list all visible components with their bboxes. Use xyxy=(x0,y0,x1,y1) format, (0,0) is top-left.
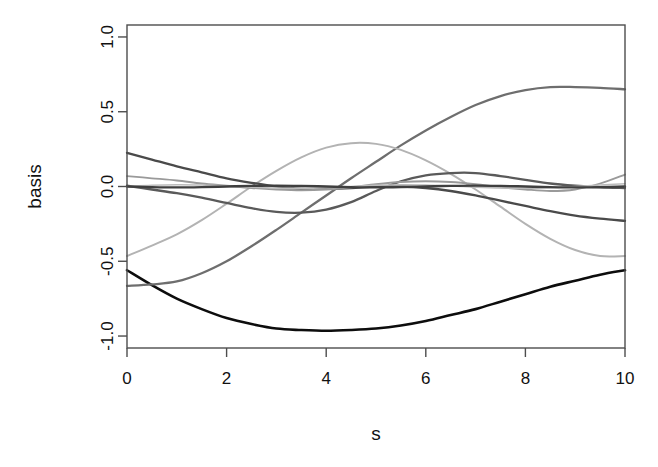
series-line-1 xyxy=(127,270,625,331)
y-tick-label: 0.5 xyxy=(98,100,117,124)
y-tick-label: -1.0 xyxy=(98,321,117,350)
x-axis-title: s xyxy=(371,423,381,444)
basis-function-plot: 0246810-1.0-0.50.00.51.0 sbasis xyxy=(0,0,658,467)
x-tick-label: 10 xyxy=(616,369,635,388)
axes-group: 0246810-1.0-0.50.00.51.0 xyxy=(98,25,635,388)
y-tick-label: 0.0 xyxy=(98,175,117,199)
series-group xyxy=(127,87,625,331)
axis-labels-group: sbasis xyxy=(24,164,380,444)
y-tick-label: 1.0 xyxy=(98,25,117,49)
x-tick-label: 0 xyxy=(122,369,131,388)
chart-figure: 0246810-1.0-0.50.00.51.0 sbasis xyxy=(0,0,658,467)
y-tick-label: -0.5 xyxy=(98,247,117,276)
y-axis-title: basis xyxy=(24,164,45,208)
series-line-5 xyxy=(127,173,625,213)
x-tick-label: 4 xyxy=(321,369,330,388)
x-tick-label: 8 xyxy=(521,369,530,388)
x-tick-label: 2 xyxy=(222,369,231,388)
x-tick-label: 6 xyxy=(421,369,430,388)
series-line-3 xyxy=(127,143,625,257)
